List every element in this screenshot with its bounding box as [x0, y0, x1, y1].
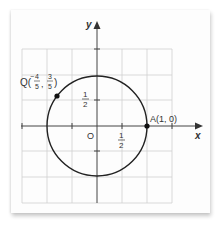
svg-text:,: ,: [41, 79, 44, 89]
svg-text:5: 5: [48, 83, 52, 90]
svg-text:−: −: [30, 73, 34, 80]
svg-text:): ): [54, 77, 57, 88]
svg-text:1: 1: [119, 131, 124, 140]
svg-text:2: 2: [119, 141, 124, 150]
point-a: [144, 123, 149, 128]
y-axis-label: y: [85, 19, 92, 30]
x-half-tick-label: 1 2: [118, 131, 125, 150]
origin-label: O: [87, 131, 94, 141]
svg-text:2: 2: [83, 100, 88, 109]
y-axis-arrow-icon: [94, 21, 101, 29]
svg-text:4: 4: [35, 73, 39, 80]
svg-text:5: 5: [35, 83, 39, 90]
svg-text:1: 1: [83, 90, 88, 99]
y-half-tick-label: 1 2: [82, 90, 89, 109]
x-axis-label: x: [194, 130, 201, 141]
point-q: [54, 93, 59, 98]
svg-text:3: 3: [48, 73, 52, 80]
unit-circle-diagram: x y O 1 2 1 2 Q( − 4 5 , 3 5 ) A(1, 0): [0, 0, 221, 227]
x-axis-arrow-icon: [195, 123, 203, 130]
point-a-label: A(1, 0): [150, 114, 177, 124]
point-q-label: Q( − 4 5 , 3 5 ): [20, 73, 57, 90]
